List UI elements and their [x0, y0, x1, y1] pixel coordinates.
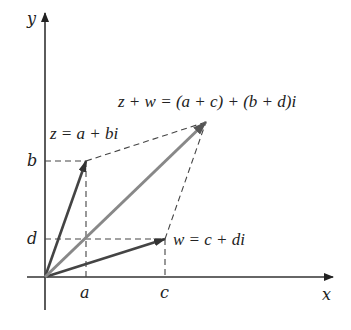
vectors — [45, 122, 206, 277]
label-z: z = a + bi — [49, 124, 119, 143]
vector-z — [45, 161, 86, 277]
label-z-plus-w: z + w = (a + c) + (b + d)i — [117, 92, 297, 111]
tick-label-a: a — [80, 283, 90, 302]
label-w: w = c + di — [173, 230, 245, 249]
tick-label-d: d — [27, 229, 37, 248]
tick-label-b: b — [27, 151, 37, 170]
complex-addition-diagram: y x b d a c z = a + bi w = c + di z + w … — [0, 0, 351, 330]
vector-z-plus-w — [45, 122, 206, 277]
parallelogram-right-edge — [165, 122, 206, 239]
x-axis-label: x — [322, 285, 331, 304]
axes — [27, 13, 333, 310]
tick-label-c: c — [160, 283, 169, 302]
y-axis-label: y — [26, 9, 37, 28]
